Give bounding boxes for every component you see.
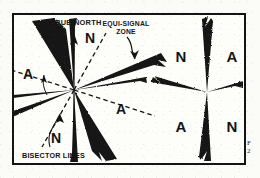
quadrant-letter-upper-left: N bbox=[176, 48, 187, 65]
radio-range-diagram-svg: TRUE NORTH EQUI-SIGNAL ZONE BISECTOR LIN… bbox=[14, 15, 243, 162]
figure-frame: TRUE NORTH EQUI-SIGNAL ZONE BISECTOR LIN… bbox=[12, 13, 246, 165]
label-equi-signal-zone-line1: EQUI-SIGNAL bbox=[103, 20, 150, 28]
caption-line-2: 2 bbox=[247, 147, 260, 155]
label-equi-signal-zone-line2: ZONE bbox=[116, 28, 136, 35]
figure-page: TRUE NORTH EQUI-SIGNAL ZONE BISECTOR LIN… bbox=[0, 0, 260, 178]
code-letter-a-right: A bbox=[116, 101, 126, 117]
code-letter-n-bottom: N bbox=[51, 130, 61, 146]
quadrant-letter-upper-right: A bbox=[227, 48, 238, 65]
code-letter-n-top: N bbox=[85, 30, 95, 46]
code-letter-a-left: A bbox=[23, 66, 33, 82]
label-true-north: TRUE NORTH bbox=[50, 18, 101, 27]
label-bisector-lines: BISECTOR LINES bbox=[22, 151, 85, 160]
quadrant-letter-lower-left: A bbox=[176, 118, 187, 135]
caption-line-1: F bbox=[247, 139, 260, 147]
figure-caption-fragment: F 2 bbox=[247, 139, 260, 155]
quadrant-letter-lower-right: N bbox=[227, 118, 238, 135]
